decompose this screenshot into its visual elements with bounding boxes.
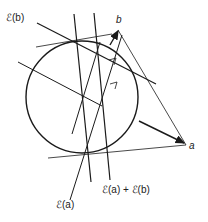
line-inner-b (72, 42, 100, 134)
label-e-sum: ℰ(a) + ℰ(b) (102, 184, 150, 195)
line-e-a (70, 35, 122, 200)
label-e-b: ℰ(b) (6, 12, 24, 23)
label-b: b (116, 14, 122, 25)
vector-a (139, 121, 184, 143)
label-e-a: ℰ(a) (56, 199, 74, 210)
line-left-diag (18, 62, 102, 106)
tick-mark-2 (110, 82, 117, 89)
line-e-sum-vertical (94, 13, 110, 180)
line-top-thin (36, 34, 112, 47)
vector-b (110, 31, 118, 45)
label-a: a (189, 140, 195, 151)
